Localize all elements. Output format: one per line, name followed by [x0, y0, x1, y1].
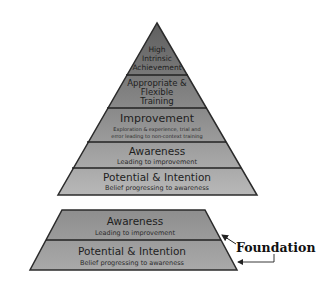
layer-subtitle: Belief progressing to awareness: [105, 184, 210, 192]
main-pyramid: High Intrinsic Achievement Appropriate &…: [58, 23, 257, 195]
layer-subtitle: Leading to improvement: [95, 229, 175, 237]
layer-potential-intention: Potential & Intention Belief progressing…: [103, 171, 211, 192]
layer-subtitle: Leading to improvement: [117, 158, 197, 166]
pyramid-diagram: High Intrinsic Achievement Appropriate &…: [0, 0, 335, 290]
arrow-to-potential-icon: [238, 254, 274, 262]
layer-title: Improvement: [120, 112, 195, 125]
foundation-layer-potential-intention: Potential & Intention Belief progressing…: [78, 245, 186, 267]
layer-title: Intrinsic: [142, 54, 172, 63]
layer-title: Awareness: [107, 215, 163, 227]
layer-title: Potential & Intention: [103, 171, 211, 183]
layer-title: High: [148, 45, 165, 54]
foundation-callout: Foundation: [222, 235, 316, 262]
arrow-to-awareness-icon: [222, 235, 236, 244]
layer-subtitle: Belief progressing to awareness: [80, 259, 185, 267]
layer-subtitle: error leading to non-context training: [111, 133, 202, 140]
layer-title: Achievement: [132, 63, 181, 72]
layer-title: Potential & Intention: [78, 245, 186, 257]
layer-improvement: Improvement Exploration & experience, tr…: [111, 112, 202, 140]
layer-subtitle: Exploration & experience, trial and: [113, 126, 200, 133]
foundation-label: Foundation: [236, 240, 316, 255]
layer-title: Training: [139, 96, 174, 106]
foundation-block: Awareness Leading to improvement Potenti…: [30, 210, 237, 270]
layer-title: Awareness: [129, 145, 185, 157]
